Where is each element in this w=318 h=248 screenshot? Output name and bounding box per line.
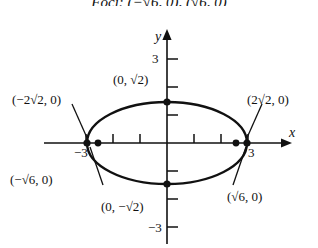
label-covertex-top: (0, √2): [113, 73, 148, 86]
label-focus-left: (−√6, 0): [10, 173, 53, 186]
label-vertex-left: (−2√2, 0): [12, 93, 61, 106]
x-tick-3: 3: [248, 146, 255, 159]
label-covertex-bottom: (0, −√2): [101, 200, 144, 213]
x-tick-neg3: −3: [74, 146, 88, 159]
y-tick-neg3: −3: [148, 221, 162, 234]
label-focus-right: (√6, 0): [227, 190, 262, 203]
point-focus-left: [95, 140, 102, 147]
x-axis-label: x: [289, 126, 295, 140]
point-covertex-bottom: [163, 180, 170, 187]
y-tick-3: 3: [152, 52, 159, 65]
point-covertex-top: [163, 98, 170, 105]
y-axis: [162, 29, 171, 244]
point-focus-right: [233, 140, 240, 147]
label-vertex-right: (2√2, 0): [247, 93, 289, 106]
y-axis-label: y: [155, 30, 161, 44]
